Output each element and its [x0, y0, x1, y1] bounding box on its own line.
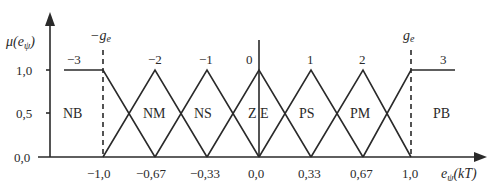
set-label-NS: NS: [194, 106, 212, 121]
set-label-ZE: Z E: [248, 106, 269, 121]
index-label-2: 2: [359, 52, 366, 67]
x-tick-label-067: 0,67: [350, 166, 373, 181]
index-label-m2: −2: [148, 52, 162, 67]
index-label-m1: −1: [199, 52, 213, 67]
x-axis-label: eψ(kT): [441, 166, 477, 181]
y-axis-arrow-icon: [45, 12, 55, 26]
set-label-PB: PB: [433, 106, 450, 121]
x-tick-label-0: 0,0: [248, 166, 264, 181]
index-label-3: 3: [440, 52, 447, 67]
index-label-m3: −3: [67, 52, 81, 67]
diagram-canvas: μ(eψ) 1,0 0,5 0,0 −ge ge −3 −2 −1 0 1 2 …: [0, 0, 495, 181]
x-tick-label-033: 0,33: [298, 166, 321, 181]
y-tick-label-1: 1,0: [16, 63, 32, 78]
index-label-0: 0: [246, 52, 253, 67]
x-tick-label-1: 1,0: [402, 166, 418, 181]
x-tick-label-m1: −1,0: [87, 166, 111, 181]
set-label-PS: PS: [299, 106, 315, 121]
set-label-NB: NB: [63, 106, 82, 121]
y-tick-label-0: 0,0: [14, 150, 30, 165]
x-tick-label-m033: −0,33: [190, 166, 220, 181]
index-label-1: 1: [307, 52, 314, 67]
neg-ge-label: −ge: [90, 28, 111, 44]
set-label-NM: NM: [143, 106, 166, 121]
membership-function-diagram: μ(eψ) 1,0 0,5 0,0 −ge ge −3 −2 −1 0 1 2 …: [0, 0, 495, 181]
pos-ge-label: ge: [403, 28, 415, 44]
y-tick-label-05: 0,5: [16, 106, 32, 121]
y-axis-label: μ(eψ): [5, 34, 35, 51]
set-label-PM: PM: [350, 106, 371, 121]
x-axis-arrow-icon: [474, 152, 487, 162]
x-tick-label-m067: −0,67: [136, 166, 167, 181]
